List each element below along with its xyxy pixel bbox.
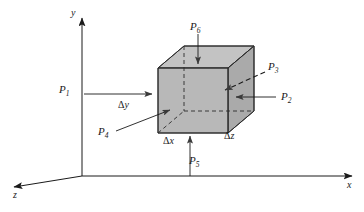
figure-canvas [0, 0, 364, 212]
force-label-P6: P6 [190, 21, 200, 35]
force-label-P4-base: P [98, 125, 105, 137]
force-label-P5-sub: 5 [196, 160, 200, 169]
force-label-P4: P4 [98, 126, 108, 140]
dimension-dy-var: y [124, 99, 128, 110]
dimension-label-dy: Δy [118, 100, 129, 110]
z-axis-line [14, 176, 82, 187]
dimension-dz-var: z [230, 130, 234, 141]
force-label-P2: P2 [281, 91, 291, 105]
force-label-P6-base: P [190, 20, 197, 32]
x-axis-label: x [347, 180, 351, 190]
control-volume-cube [158, 46, 254, 133]
force-label-P3-base: P [268, 60, 275, 72]
force-label-P1: P1 [59, 84, 69, 98]
force-label-P3-sub: 3 [275, 66, 279, 75]
force-label-P1-base: P [59, 83, 66, 95]
force-label-P2-base: P [281, 90, 288, 102]
force-label-P5-base: P [189, 154, 196, 166]
y-axis-label: y [71, 8, 75, 18]
dimension-dx-var: x [169, 135, 173, 146]
z-axis-label: z [13, 190, 17, 200]
force-label-P3: P3 [268, 61, 278, 75]
force-label-P2-sub: 2 [288, 96, 292, 105]
pressure-cube-figure: y x z P1 P2 P3 P4 P5 P6 Δx Δy Δz [0, 0, 364, 212]
dimension-label-dx: Δx [163, 136, 174, 146]
force-label-P1-sub: 1 [66, 89, 70, 98]
force-label-P6-sub: 6 [197, 26, 201, 35]
dimension-label-dz: Δz [224, 131, 234, 141]
cube-front-face [158, 68, 228, 133]
force-label-P5: P5 [189, 155, 199, 169]
force-label-P4-sub: 4 [105, 131, 109, 140]
